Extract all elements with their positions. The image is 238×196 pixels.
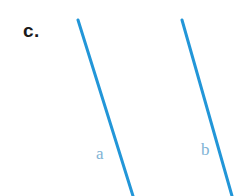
line-label-a: a — [96, 145, 104, 163]
line-b — [182, 20, 232, 196]
part-label-c: c. — [23, 21, 40, 41]
line-a — [78, 20, 133, 196]
line-label-b: b — [201, 141, 210, 159]
figure-canvas: c. a b — [0, 0, 238, 196]
